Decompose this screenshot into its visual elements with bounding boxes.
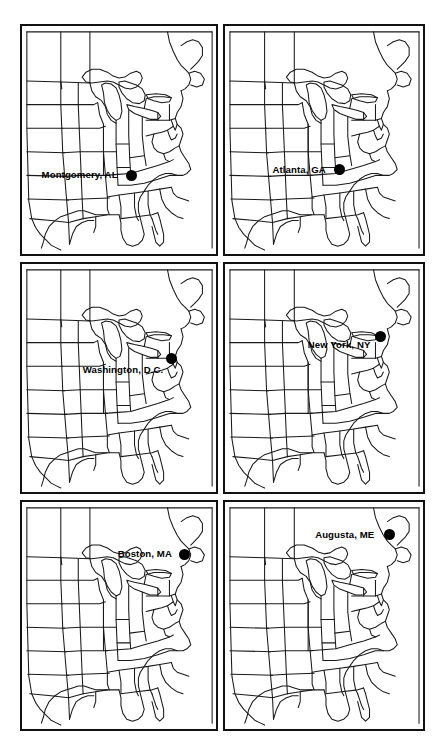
- panel-inner: Atlanta, GA: [225, 26, 423, 254]
- us-map-outline: [225, 264, 423, 492]
- map-panel-montgomery: Montgomery, AL: [20, 24, 218, 256]
- map-panel-washington: Washington, D.C.: [20, 262, 218, 494]
- panel-inner: Montgomery, AL: [22, 26, 216, 254]
- panel-inner: Washington, D.C.: [22, 264, 216, 492]
- us-map-outline: [22, 26, 216, 254]
- panel-inner: New York, NY: [225, 264, 423, 492]
- city-label: Boston, MA: [118, 549, 172, 559]
- us-map-outline: [22, 502, 216, 729]
- map-paths: [27, 270, 212, 488]
- us-map-outline: [225, 26, 423, 254]
- map-panel-atlanta: Atlanta, GA: [223, 24, 425, 256]
- map-panel-augusta: Augusta, ME: [223, 500, 425, 731]
- map-panel-boston: Boston, MA: [20, 500, 218, 731]
- city-label: Montgomery, AL: [42, 171, 118, 181]
- map-paths: [230, 270, 419, 488]
- city-label: Atlanta, GA: [272, 165, 325, 175]
- city-marker-dot: [166, 353, 177, 364]
- map-paths: [230, 32, 419, 250]
- map-panel-new-york: New York, NY: [223, 262, 425, 494]
- map-figure: Montgomery, AL: [0, 0, 445, 754]
- us-map-outline: [22, 264, 216, 492]
- map-paths: [27, 32, 212, 250]
- city-label: Washington, D.C.: [83, 365, 164, 375]
- city-label: New York, NY: [308, 340, 371, 350]
- panel-inner: Boston, MA: [22, 502, 216, 729]
- city-marker-dot: [126, 170, 137, 181]
- map-paths: [230, 508, 419, 725]
- panel-inner: Augusta, ME: [225, 502, 423, 729]
- map-paths: [27, 508, 212, 725]
- city-label: Augusta, ME: [315, 530, 374, 540]
